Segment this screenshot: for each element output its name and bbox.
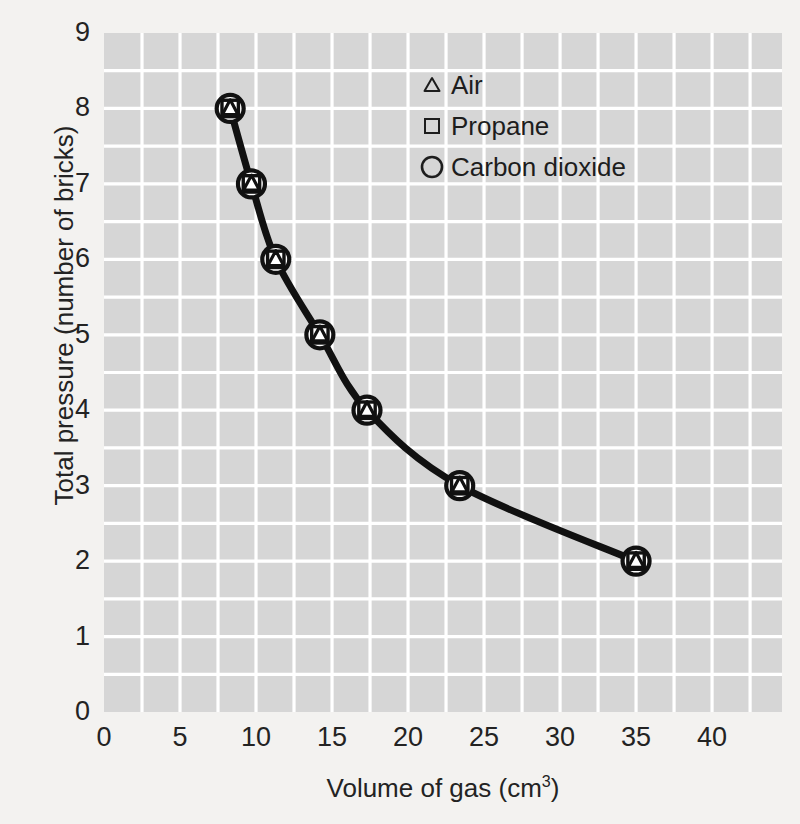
x-axis-title-superscript: 3 (542, 772, 551, 790)
data-point-marker (262, 246, 289, 273)
data-point-marker (306, 321, 333, 348)
circle-marker-icon (417, 152, 451, 182)
x-axis-title-base: Volume of gas (cm (327, 773, 542, 803)
x-tick-label: 30 (530, 724, 590, 751)
x-axis-title: Volume of gas (cm3) (104, 772, 782, 804)
chart-legend: AirPropaneCarbon dioxide (417, 70, 626, 182)
legend-item: Carbon dioxide (417, 152, 626, 182)
data-point-marker (238, 170, 265, 197)
square-marker-icon (417, 111, 451, 141)
data-point-marker (446, 472, 473, 499)
data-point-marker (623, 548, 650, 575)
y-tick-label: 0 (56, 698, 90, 725)
x-tick-label: 20 (378, 724, 438, 751)
y-tick-label: 6 (56, 245, 90, 272)
y-tick-label: 9 (56, 19, 90, 46)
legend-item: Air (417, 70, 626, 100)
x-tick-label: 15 (302, 724, 362, 751)
y-tick-label: 1 (56, 623, 90, 650)
legend-item-label: Carbon dioxide (451, 152, 626, 183)
x-tick-label: 25 (454, 724, 514, 751)
y-tick-label: 3 (56, 472, 90, 499)
legend-item-label: Air (451, 70, 483, 101)
data-point-marker (353, 397, 380, 424)
chart-figure: 0123456789 0510152025303540 Total pressu… (0, 0, 800, 824)
x-tick-label: 0 (74, 724, 134, 751)
triangle-marker-icon (417, 70, 451, 100)
legend-item: Propane (417, 111, 626, 141)
legend-item-label: Propane (451, 111, 549, 142)
y-tick-label: 8 (56, 94, 90, 121)
y-tick-label: 4 (56, 396, 90, 423)
x-tick-label: 10 (226, 724, 286, 751)
x-tick-label: 5 (150, 724, 210, 751)
y-tick-label: 2 (56, 547, 90, 574)
y-tick-label: 5 (56, 321, 90, 348)
x-axis-title-text: Volume of gas (cm3) (327, 773, 560, 803)
x-tick-label: 35 (606, 724, 666, 751)
x-axis-title-tail: ) (551, 773, 560, 803)
y-tick-label: 7 (56, 170, 90, 197)
x-tick-label: 40 (682, 724, 742, 751)
data-point-marker (217, 95, 244, 122)
